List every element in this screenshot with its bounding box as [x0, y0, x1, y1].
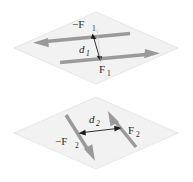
- label-force-pos-1-text: F: [99, 63, 105, 75]
- plane-surface-1: [14, 12, 178, 84]
- label-force-pos-1-subscript: 1: [107, 69, 111, 78]
- couple-diagram-svg: −F 1 F 1 d 1: [0, 0, 193, 182]
- label-distance-2-subscript: 2: [96, 119, 100, 128]
- label-distance-1-text: d: [79, 43, 85, 55]
- couple-plane-1-group: −F 1 F 1 d 1: [14, 12, 178, 84]
- plane-surface-2: [14, 97, 178, 169]
- label-distance-1-subscript: 1: [86, 49, 90, 58]
- label-force-neg-2-text: −F: [55, 135, 67, 147]
- label-distance-2-text: d: [89, 113, 95, 125]
- label-force-neg-2-subscript: 2: [75, 141, 79, 150]
- label-force-neg-1-text: −F: [72, 18, 84, 30]
- label-force-neg-1-subscript: 1: [92, 24, 96, 33]
- label-force-pos-2-subscript: 2: [136, 130, 140, 139]
- label-force-pos-2-text: F: [128, 124, 134, 136]
- couple-plane-2-group: −F 2 F 2 d 2: [14, 97, 178, 169]
- figure-container: −F 1 F 1 d 1: [0, 0, 193, 182]
